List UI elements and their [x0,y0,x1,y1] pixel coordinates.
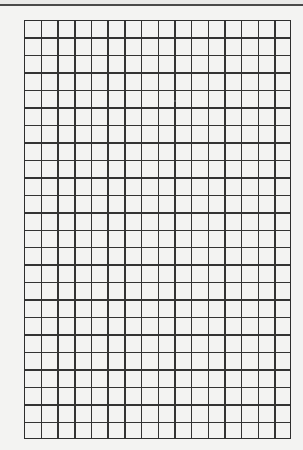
grid-row-line [25,334,290,336]
grid-row-line [25,212,290,214]
grid-row-line [25,142,290,144]
grid-row-line [25,299,290,301]
grid-row-line [25,90,290,92]
grid-row-line [25,387,290,389]
grid-row-line [25,37,290,39]
grid-row-line [25,177,290,179]
grid-row-line [25,195,290,197]
grid-row-line [25,369,290,371]
grid-row-line [25,264,290,266]
grid-row-line [25,107,290,109]
grid-row-line [25,160,290,162]
paper-speck [174,100,176,102]
grid-row-line [25,230,290,232]
grid-row-line [25,317,290,319]
grid-row-line [25,404,290,406]
top-rule-line [0,4,303,6]
grid-row-line [25,422,290,424]
grid-row-line [25,55,290,57]
grid-row-line [25,247,290,249]
grid-row-line [25,125,290,127]
grid-paper [24,20,291,439]
grid-row-line [25,352,290,354]
grid-row-line [25,282,290,284]
grid-row-line [25,72,290,74]
